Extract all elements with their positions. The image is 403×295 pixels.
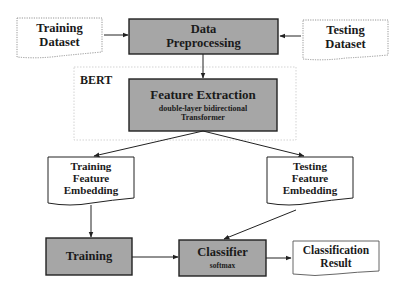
classification-result-node: Classification Result	[293, 242, 379, 272]
bert-label: BERT	[80, 73, 112, 88]
testing-dataset-line2: Dataset	[325, 38, 365, 52]
classification-result-line1: Classification	[303, 244, 369, 257]
testing-feature-embedding-line2: Feature	[292, 172, 328, 184]
edge-testing-embedding-to-classifier	[224, 210, 296, 239]
testing-feature-embedding-node: Testing Feature Embedding	[267, 158, 353, 198]
classifier-title: Classifier	[197, 246, 248, 260]
training-feature-embedding-node: Training Feature Embedding	[48, 158, 134, 198]
testing-feature-embedding-line3: Embedding	[283, 184, 337, 196]
feature-extraction-sub2: Transformer	[181, 114, 225, 123]
feature-extraction-node: Feature Extraction double-layer bidirect…	[129, 80, 277, 130]
data-preprocessing-node: Data Preprocessing	[129, 19, 278, 54]
training-dataset-line2: Dataset	[39, 36, 79, 50]
training-dataset-line1: Training	[36, 22, 82, 36]
data-preprocessing-line2: Preprocessing	[166, 37, 241, 51]
training-feature-embedding-line1: Training	[71, 160, 112, 172]
training-dataset-node: Training Dataset	[17, 20, 102, 52]
training-feature-embedding-line3: Embedding	[64, 184, 118, 196]
data-preprocessing-line1: Data	[191, 23, 217, 37]
training-node: Training	[46, 238, 132, 275]
testing-dataset-node: Testing Dataset	[303, 22, 388, 54]
training-feature-embedding-line2: Feature	[73, 172, 109, 184]
classification-result-line2: Result	[320, 257, 351, 270]
feature-extraction-title: Feature Extraction	[150, 88, 256, 102]
edge-feature-extraction-to-training-embedding	[94, 131, 203, 156]
testing-dataset-line1: Testing	[326, 24, 364, 38]
classifier-sub: softmax	[210, 262, 235, 270]
training-label: Training	[66, 250, 112, 264]
edge-feature-extraction-to-testing-embedding	[203, 131, 304, 156]
classifier-node: Classifier softmax	[179, 240, 266, 276]
testing-feature-embedding-line1: Testing	[293, 160, 327, 172]
